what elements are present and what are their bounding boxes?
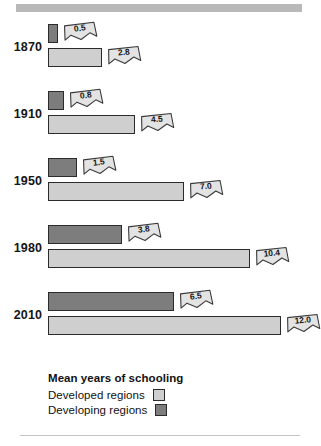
- legend-item-developing: Developing regions: [48, 404, 288, 416]
- bar-developed-1950: [48, 182, 184, 201]
- year-label-1950: 1950: [0, 174, 42, 188]
- bar-developing-1980: [48, 225, 122, 244]
- bar-developing-1950: [48, 158, 77, 177]
- bar-group-1980: 19803.810.4: [0, 223, 320, 279]
- value-label-developed-1950: 7.0: [188, 179, 223, 192]
- chart-legend: Mean years of schooling Developed region…: [48, 372, 288, 419]
- year-label-2010: 2010: [0, 308, 42, 322]
- value-label-developed-1870: 2.8: [107, 45, 142, 58]
- value-callout-developing-1950: 1.5: [81, 152, 117, 177]
- year-label-1980: 1980: [0, 241, 42, 255]
- value-callout-developing-2010: 6.5: [178, 286, 214, 311]
- value-callout-developing-1910: 0.8: [67, 85, 103, 110]
- bar-developing-1910: [48, 91, 64, 110]
- legend-item-developing-label: Developing regions: [48, 404, 147, 416]
- value-callout-developed-1910: 4.5: [139, 109, 175, 133]
- value-label-developing-1980: 3.8: [126, 222, 161, 236]
- value-label-developed-1910: 4.5: [140, 112, 175, 125]
- top-decorative-rule: [16, 4, 302, 12]
- bar-developed-1870: [48, 48, 102, 67]
- value-callout-developed-2010: 12.0: [285, 310, 321, 334]
- bar-chart-plot-area: 18700.52.819100.84.519501.57.019803.810.…: [0, 16, 320, 364]
- value-callout-developing-1980: 3.8: [126, 219, 162, 244]
- bar-group-1950: 19501.57.0: [0, 156, 320, 212]
- value-label-developed-1980: 10.4: [254, 246, 289, 259]
- legend-title: Mean years of schooling: [48, 372, 288, 384]
- bottom-divider-rule: [20, 435, 300, 436]
- value-label-developing-1910: 0.8: [68, 88, 103, 102]
- bar-developed-1910: [48, 115, 135, 134]
- bar-group-1910: 19100.84.5: [0, 89, 320, 145]
- value-callout-developed-1870: 2.8: [106, 42, 142, 66]
- bar-developed-1980: [48, 249, 250, 268]
- value-label-developed-2010: 12.0: [285, 313, 320, 326]
- value-label-developing-1950: 1.5: [81, 155, 116, 169]
- value-callout-developed-1950: 7.0: [188, 176, 224, 200]
- bar-group-1870: 18700.52.8: [0, 22, 320, 78]
- legend-item-developed: Developed regions: [48, 389, 288, 401]
- value-callout-developed-1980: 10.4: [254, 243, 290, 267]
- value-label-developing-2010: 6.5: [178, 289, 213, 303]
- legend-swatch-developing: [155, 404, 167, 416]
- bar-developed-2010: [48, 316, 281, 335]
- bar-developing-2010: [48, 292, 174, 311]
- legend-item-developed-label: Developed regions: [48, 389, 145, 401]
- legend-swatch-developed: [153, 389, 165, 401]
- value-callout-developing-1870: 0.5: [62, 18, 98, 43]
- value-label-developing-1870: 0.5: [62, 21, 97, 35]
- bar-group-2010: 20106.512.0: [0, 290, 320, 346]
- year-label-1870: 1870: [0, 40, 42, 54]
- year-label-1910: 1910: [0, 107, 42, 121]
- bar-developing-1870: [48, 24, 58, 43]
